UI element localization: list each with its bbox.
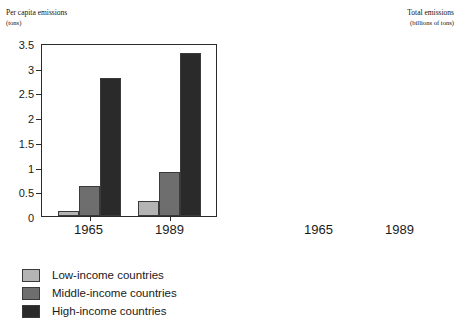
legend-item-high: High-income countries xyxy=(22,304,177,318)
chart-title-per-capita: Per capita emissions (tons) xyxy=(6,8,67,27)
y-axis-tick-label: 0.5 xyxy=(19,188,34,199)
y-axis-tick xyxy=(36,144,41,145)
y-axis-tick-label: 1.5 xyxy=(19,138,34,149)
legend-item-mid: Middle-income countries xyxy=(22,286,177,300)
x-axis-label-1989: 1989 xyxy=(385,222,414,237)
y-axis-tick xyxy=(36,193,41,194)
chart-panel-total: Total emissions (billions of tons) 00.51… xyxy=(230,0,460,328)
legend-swatch-high-icon xyxy=(22,305,40,318)
x-axis-label-1965: 1965 xyxy=(304,222,333,237)
y-axis-tick-label: 3 xyxy=(28,64,34,75)
y-axis-tick-label: 2 xyxy=(28,114,34,125)
y-axis-tick-label: 0 xyxy=(28,213,34,224)
bar-group xyxy=(58,45,121,216)
chart-panel-per-capita: Per capita emissions (tons) 00.511.522.5… xyxy=(0,0,230,328)
y-axis-tick xyxy=(36,119,41,120)
legend-label-low: Low-income countries xyxy=(52,269,164,281)
y-axis-tick-label: 2.5 xyxy=(19,89,34,100)
bar-low-1965 xyxy=(58,211,79,216)
x-axis-label-1965: 1965 xyxy=(74,222,103,237)
y-axis-tick-label: 1 xyxy=(28,163,34,174)
x-axis-tick xyxy=(90,216,91,221)
bar-mid-1965 xyxy=(79,186,100,216)
chart-subtitle-text: (billions of tons) xyxy=(407,18,454,28)
legend-label-high: High-income countries xyxy=(52,305,166,317)
y-axis-tick xyxy=(36,94,41,95)
y-axis-tick-label: 3.5 xyxy=(19,40,34,51)
y-axis-tick xyxy=(36,169,41,170)
bar-high-1965 xyxy=(100,78,121,216)
bars-per-capita xyxy=(42,45,216,216)
y-axis-tick xyxy=(36,70,41,71)
x-axis-tick xyxy=(170,216,171,221)
bar-group xyxy=(138,45,201,216)
legend-label-mid: Middle-income countries xyxy=(52,287,177,299)
legend-swatch-mid-icon xyxy=(22,287,40,300)
bar-mid-1989 xyxy=(159,172,180,216)
plot-area-per-capita: 00.511.522.533.5 xyxy=(41,44,217,217)
chart-subtitle-text: (tons) xyxy=(6,18,67,28)
bar-high-1989 xyxy=(180,53,201,216)
x-axis-label-1989: 1989 xyxy=(155,222,184,237)
legend-swatch-low-icon xyxy=(22,269,40,282)
legend-item-low: Low-income countries xyxy=(22,268,177,282)
chart-title-text: Per capita emissions xyxy=(6,8,67,17)
legend-per-capita: Low-income countriesMiddle-income countr… xyxy=(22,268,177,318)
bar-low-1989 xyxy=(138,201,159,216)
chart-title-text: Total emissions xyxy=(407,8,454,17)
chart-title-total: Total emissions (billions of tons) xyxy=(407,8,454,27)
